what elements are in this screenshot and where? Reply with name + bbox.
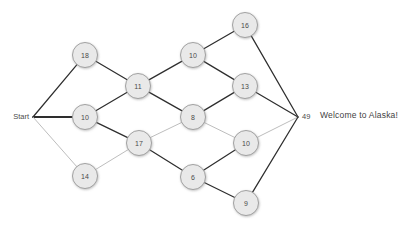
node-circle[interactable] — [73, 164, 98, 189]
graph-edge — [204, 183, 235, 198]
node-circle[interactable] — [181, 105, 206, 130]
node-circle[interactable] — [126, 74, 151, 99]
graph-edge — [96, 61, 127, 79]
node-circle[interactable] — [233, 74, 258, 99]
graph-node[interactable]: 8 — [181, 105, 206, 130]
node-circle[interactable] — [234, 131, 259, 156]
node-circle[interactable] — [73, 43, 98, 68]
graph-edge — [150, 150, 183, 171]
welcome-message: Welcome to Alaska! — [320, 110, 398, 120]
graph-edge — [204, 123, 235, 138]
node-layer: 181110141016138171069 — [73, 13, 259, 216]
graph-edge — [149, 92, 182, 111]
graph-node[interactable]: 18 — [73, 43, 98, 68]
graph-node[interactable]: 13 — [233, 74, 258, 99]
graph-edge — [256, 92, 298, 117]
graph-edge — [204, 92, 235, 110]
graph-node[interactable]: 6 — [181, 165, 206, 190]
start-label: Start — [13, 112, 30, 121]
graph-node[interactable]: 10 — [234, 131, 259, 156]
graph-edge — [33, 117, 77, 167]
graph-edge — [204, 150, 236, 171]
graph-node[interactable]: 17 — [127, 131, 152, 156]
graph-edge — [33, 65, 77, 117]
node-circle[interactable] — [127, 131, 152, 156]
graph-node[interactable]: 10 — [73, 105, 98, 130]
graph-canvas: 181110141016138171069 Start 49 Welcome t… — [0, 0, 414, 233]
graph-edge — [96, 150, 129, 170]
graph-edge — [204, 61, 235, 79]
graph-node[interactable]: 16 — [233, 13, 258, 38]
end-total-label: 49 — [302, 112, 310, 121]
node-circle[interactable] — [181, 165, 206, 190]
graph-edge — [149, 61, 182, 80]
graph-node[interactable]: 10 — [181, 43, 206, 68]
graph-node[interactable]: 14 — [73, 164, 98, 189]
node-circle[interactable] — [234, 191, 259, 216]
graph-edge — [96, 122, 127, 137]
graph-edge — [251, 36, 298, 117]
node-circle[interactable] — [181, 43, 206, 68]
graph-edge — [150, 122, 181, 137]
graph-edge — [96, 92, 127, 110]
graph-node[interactable]: 11 — [126, 74, 151, 99]
graph-node[interactable]: 9 — [234, 191, 259, 216]
graph-edge — [204, 31, 234, 49]
node-circle[interactable] — [233, 13, 258, 38]
node-circle[interactable] — [73, 105, 98, 130]
